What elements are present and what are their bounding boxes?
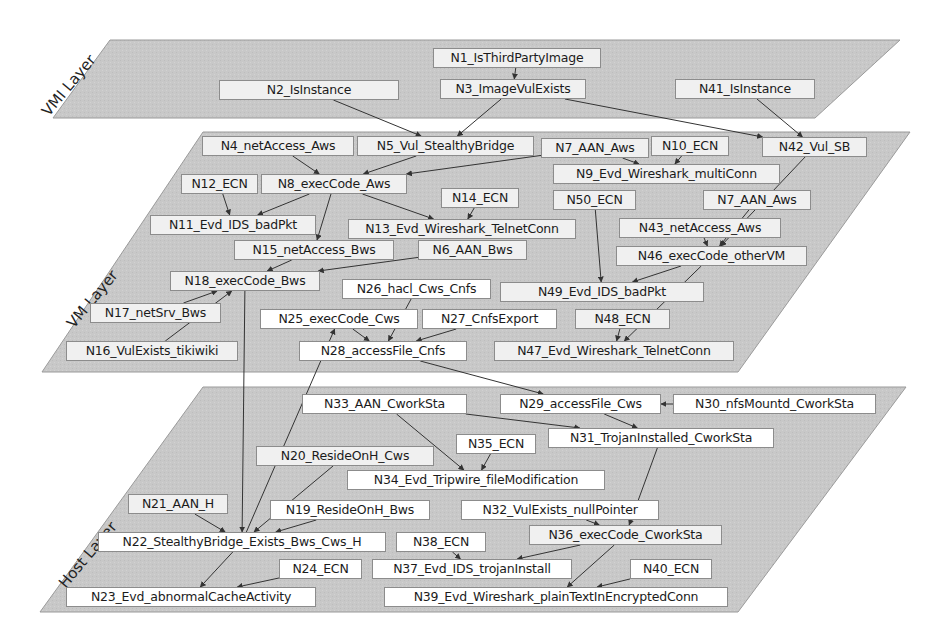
node-n15: N15_netAccess_Bws: [234, 240, 394, 260]
node-n19: N19_ResideOnH_Bws: [270, 500, 430, 520]
node-n48: N48_ECN: [575, 309, 670, 329]
node-n49: N49_Evd_IDS_badPkt: [500, 282, 704, 302]
node-n32: N32_VulExists_nullPointer: [461, 500, 659, 520]
node-n46: N46_execCode_otherVM: [616, 246, 807, 266]
node-n22: N22_StealthyBridge_Exists_Bws_Cws_H: [98, 532, 386, 552]
node-n7-aan-aws-2: N7_AAN_Aws: [703, 190, 811, 210]
node-n43: N43_netAccess_Aws: [619, 218, 781, 238]
node-n24: N24_ECN: [279, 559, 362, 579]
node-n30: N30_nfsMountd_CworkSta: [673, 394, 876, 414]
node-n41: N41_IsInstance: [675, 79, 815, 99]
node-n50: N50_ECN: [553, 190, 636, 210]
node-n40: N40_ECN: [630, 559, 712, 579]
node-n7-aan-aws: N7_AAN_Aws: [541, 138, 649, 158]
node-n1: N1_IsThirdPartyImage: [433, 48, 601, 68]
node-n18: N18_execCode_Bws: [170, 271, 320, 291]
node-n37: N37_Evd_IDS_trojanInstall: [372, 559, 572, 579]
node-n39: N39_Evd_Wireshark_plainTextInEncryptedCo…: [384, 587, 728, 607]
node-n5: N5_Vul_StealthyBridge: [357, 136, 534, 156]
node-n21: N21_AAN_H: [128, 494, 228, 514]
node-n38: N38_ECN: [396, 532, 486, 552]
node-n2: N2_IsInstance: [219, 80, 399, 100]
node-n47: N47_Evd_Wireshark_TelnetConn: [494, 341, 734, 361]
node-n25: N25_execCode_Cws: [260, 309, 418, 329]
node-n31: N31_TrojanInstalled_CworkSta: [548, 428, 774, 448]
node-n3: N3_ImageVulExists: [440, 79, 586, 99]
node-n34: N34_Evd_Tripwire_fileModification: [347, 470, 605, 490]
node-n6: N6_AAN_Bws: [418, 240, 527, 260]
node-n33: N33_AAN_CworkSta: [302, 394, 467, 414]
node-n8: N8_execCode_Aws: [261, 174, 407, 194]
node-n16: N16_VulExists_tikiwiki: [66, 341, 238, 361]
node-n13: N13_Evd_Wireshark_TelnetConn: [348, 219, 576, 239]
node-n20: N20_ResideOnH_Cws: [256, 446, 434, 466]
node-n4: N4_netAccess_Aws: [202, 136, 354, 156]
node-n23: N23_Evd_abnormalCacheActivity: [66, 587, 316, 607]
node-n29: N29_accessFile_Cws: [500, 394, 661, 414]
node-n42: N42_Vul_SB: [762, 137, 867, 157]
node-n11: N11_Evd_IDS_badPkt: [150, 215, 316, 235]
node-n17: N17_netSrv_Bws: [90, 303, 221, 323]
node-n9: N9_Evd_Wireshark_multiConn: [553, 164, 780, 184]
node-n35: N35_ECN: [456, 434, 536, 454]
node-n12: N12_ECN: [181, 174, 258, 194]
node-n14: N14_ECN: [441, 188, 519, 208]
node-n10: N10_ECN: [651, 136, 729, 156]
node-n36: N36_execCode_CworkSta: [529, 525, 722, 545]
node-n26: N26_hacl_Cws_Cnfs: [342, 279, 491, 299]
node-n28: N28_accessFile_Cnfs: [299, 341, 467, 361]
node-n27: N27_CnfsExport: [422, 309, 557, 329]
